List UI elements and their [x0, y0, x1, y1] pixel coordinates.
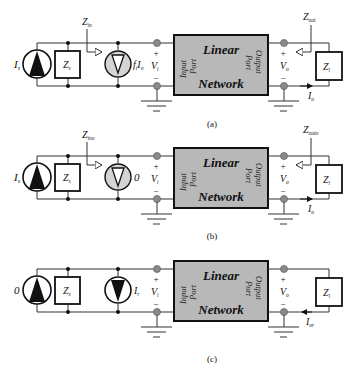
output-impedance-arrow-icon: [296, 25, 311, 52]
svg-text:Input: Input: [178, 172, 188, 192]
svg-text:Output: Output: [254, 50, 264, 74]
ground-icon: [141, 315, 172, 337]
input-node-bottom: [154, 196, 161, 203]
svg-text:Linear: Linear: [202, 268, 240, 283]
output-impedance-label: Zouto: [303, 124, 319, 136]
output-node-bottom: [281, 309, 288, 316]
svg-text:Linear: Linear: [202, 42, 240, 57]
svg-text:+: +: [280, 48, 286, 58]
svg-text:+: +: [153, 161, 159, 171]
input-node-top: [154, 40, 161, 47]
input-node-top: [154, 153, 161, 160]
ground-icon: [141, 202, 172, 224]
svg-text:+: +: [280, 274, 286, 284]
current-source-icon: [23, 50, 51, 78]
panel-c: 0 Zs Ir + Vi − Linear Network Input Port…: [14, 261, 342, 364]
panel-a: Is Zs Zin fiIo + Vi − Linear Network Inp…: [13, 11, 342, 129]
input-impedance-arrow-icon: [87, 142, 102, 165]
ground-icon: [141, 89, 172, 111]
source-label: Is: [13, 171, 21, 184]
svg-text:−: −: [280, 73, 286, 83]
svg-text:Input: Input: [178, 59, 188, 79]
svg-text:+: +: [153, 48, 159, 58]
panel-caption: (b): [207, 231, 218, 241]
input-impedance-label: Zino: [82, 129, 95, 141]
svg-text:Vo: Vo: [280, 173, 289, 185]
input-node-bottom: [154, 309, 161, 316]
svg-text:Vo: Vo: [280, 60, 289, 72]
svg-text:Vi: Vi: [151, 173, 159, 185]
panel-b: Is Zs Zino 0 + Vi − Linear Network Input…: [13, 124, 342, 241]
svg-text:Port: Port: [188, 58, 198, 75]
independent-current-source-icon: [105, 277, 131, 303]
svg-text:Port: Port: [188, 284, 198, 301]
ground-icon: [268, 315, 299, 337]
svg-text:−: −: [280, 299, 286, 309]
svg-text:+: +: [280, 161, 286, 171]
svg-text:Network: Network: [197, 189, 244, 204]
svg-text:Output: Output: [254, 276, 264, 300]
input-node-top: [154, 266, 161, 273]
input-node-bottom: [154, 83, 161, 90]
output-node-top: [281, 153, 288, 160]
svg-text:Vi: Vi: [151, 60, 159, 72]
output-node-top: [281, 266, 288, 273]
svg-text:Port: Port: [188, 171, 198, 188]
load-impedance-box: [316, 278, 342, 306]
input-impedance-label: Zin: [82, 16, 92, 28]
controlled-source-label: 0: [134, 171, 140, 183]
svg-text:Output: Output: [254, 163, 264, 187]
current-source-icon: [23, 276, 51, 304]
svg-text:Vi: Vi: [151, 286, 159, 298]
output-impedance-label: Zout: [303, 11, 316, 23]
svg-text:−: −: [153, 73, 159, 83]
svg-text:Port: Port: [244, 54, 254, 71]
panel-caption: (c): [207, 354, 217, 364]
output-node-top: [281, 40, 288, 47]
svg-text:+: +: [153, 274, 159, 284]
controlled-source-label: fiIo: [133, 59, 144, 71]
svg-text:Input: Input: [178, 285, 188, 305]
load-impedance-box: [316, 165, 342, 193]
svg-text:−: −: [153, 186, 159, 196]
panel-caption: (a): [207, 119, 217, 129]
controlled-source-label: Ir: [133, 285, 140, 297]
svg-text:Network: Network: [197, 76, 244, 91]
svg-text:Port: Port: [244, 280, 254, 297]
current-source-icon: [23, 163, 51, 191]
output-node-bottom: [281, 83, 288, 90]
source-label: 0: [14, 284, 20, 296]
svg-text:−: −: [153, 299, 159, 309]
source-label: Is: [13, 58, 21, 71]
svg-text:Ior: Ior: [305, 316, 315, 328]
circuit-figure: Is Zs Zin fiIo + Vi − Linear Network Inp…: [0, 0, 353, 371]
svg-text:Port: Port: [244, 167, 254, 184]
svg-text:Network: Network: [197, 302, 244, 317]
svg-text:Io: Io: [307, 90, 314, 102]
svg-text:−: −: [280, 186, 286, 196]
dependent-current-source-icon: [105, 51, 131, 77]
ground-icon: [268, 202, 299, 224]
svg-text:Linear: Linear: [202, 155, 240, 170]
output-node-bottom: [281, 196, 288, 203]
ground-icon: [268, 89, 299, 111]
output-impedance-arrow-icon: [296, 138, 311, 165]
load-impedance-box: [316, 52, 342, 80]
dependent-current-source-icon: [105, 164, 131, 190]
svg-text:Io: Io: [307, 203, 314, 215]
svg-text:Vo: Vo: [280, 286, 289, 298]
input-impedance-arrow-icon: [87, 29, 102, 52]
